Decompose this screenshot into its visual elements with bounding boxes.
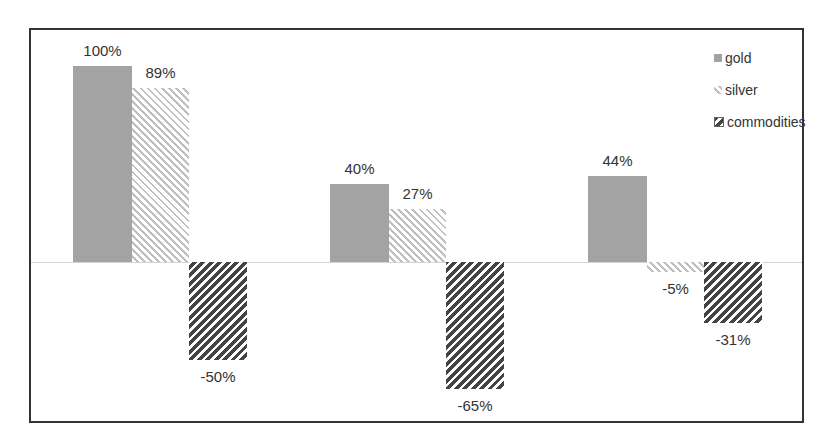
- data-label-silver: -5%: [662, 280, 689, 297]
- data-label-commodities: -31%: [715, 331, 750, 348]
- bar-gold: [588, 176, 647, 262]
- commodities-swatch-icon: [714, 117, 724, 127]
- bar-commodities: [446, 262, 504, 389]
- chart-frame: 100%89%-50%40%27%-65%44%-5%-31% gold sil…: [29, 28, 804, 423]
- bar-commodities: [189, 262, 247, 360]
- silver-swatch-icon: [714, 86, 722, 94]
- bar-gold: [73, 66, 132, 262]
- gold-swatch-icon: [714, 54, 722, 62]
- legend-item-commodities: commodities: [714, 106, 806, 138]
- data-label-gold: 100%: [83, 42, 121, 59]
- bar-gold: [330, 184, 389, 262]
- data-label-commodities: -50%: [200, 368, 235, 385]
- legend-item-silver: silver: [714, 74, 806, 106]
- legend-item-gold: gold: [714, 42, 806, 74]
- bar-silver: [647, 262, 704, 272]
- bar-commodities: [704, 262, 762, 323]
- data-label-gold: 40%: [344, 160, 374, 177]
- data-label-commodities: -65%: [457, 397, 492, 414]
- data-label-silver: 27%: [402, 185, 432, 202]
- data-label-silver: 89%: [145, 64, 175, 81]
- data-label-gold: 44%: [602, 152, 632, 169]
- bar-silver: [389, 209, 446, 262]
- legend: gold silver commodities: [714, 42, 806, 138]
- bar-silver: [132, 88, 189, 262]
